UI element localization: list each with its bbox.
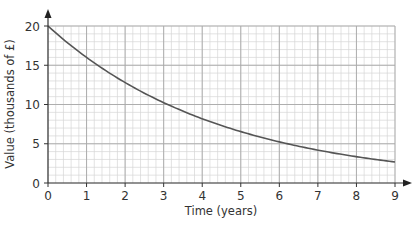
x-tick-label: 7 xyxy=(314,189,322,203)
x-tick-label: 9 xyxy=(391,189,399,203)
value-curve xyxy=(48,26,395,162)
y-ticks: 05101520 xyxy=(25,20,48,191)
y-tick-label: 20 xyxy=(25,20,40,34)
x-tick-label: 5 xyxy=(237,189,245,203)
y-axis-arrow-icon xyxy=(45,9,52,18)
x-tick-label: 6 xyxy=(276,189,284,203)
x-tick-label: 1 xyxy=(83,189,91,203)
x-axis-label: Time (years) xyxy=(184,204,257,218)
x-tick-label: 0 xyxy=(44,189,52,203)
y-tick-label: 15 xyxy=(25,59,40,73)
chart: 0123456789 05101520 Time (years) Value (… xyxy=(0,0,420,227)
x-tick-label: 4 xyxy=(198,189,206,203)
y-tick-label: 0 xyxy=(32,177,40,191)
x-tick-label: 8 xyxy=(353,189,361,203)
x-ticks: 0123456789 xyxy=(44,183,399,203)
y-tick-label: 5 xyxy=(32,137,40,151)
y-tick-label: 10 xyxy=(25,98,40,112)
y-axis-label: Value (thousands of £) xyxy=(3,39,17,169)
x-tick-label: 3 xyxy=(160,189,168,203)
x-tick-label: 2 xyxy=(121,189,129,203)
x-axis-arrow-icon xyxy=(403,180,412,187)
